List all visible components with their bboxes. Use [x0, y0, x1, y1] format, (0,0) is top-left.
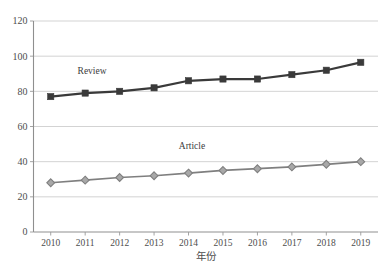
data-point-review-2016 [254, 76, 260, 82]
data-point-article-2012 [116, 174, 124, 182]
x-axis-ticks: 2010201120122013201420152016201720182019 [41, 232, 370, 248]
x-tick-label-2012: 2012 [110, 238, 129, 248]
series-label-article: Article [179, 141, 205, 151]
chart-container: 0204060801001202010201120122013201420152… [0, 0, 387, 277]
x-tick-label-2013: 2013 [145, 238, 164, 248]
data-point-review-2015 [220, 76, 226, 82]
data-point-review-2011 [82, 90, 88, 96]
x-tick-label-2015: 2015 [213, 238, 232, 248]
y-tick-label-40: 40 [18, 156, 28, 167]
x-axis-title: 年份 [196, 250, 217, 262]
data-point-article-2016 [254, 165, 262, 173]
y-tick-label-80: 80 [18, 86, 28, 97]
data-point-article-2019 [357, 158, 365, 166]
series-article [47, 158, 365, 187]
data-point-review-2010 [48, 94, 54, 100]
x-tick-label-2016: 2016 [248, 238, 267, 248]
data-point-article-2017 [288, 163, 296, 171]
data-point-review-2019 [358, 59, 364, 65]
data-point-review-2017 [289, 72, 295, 78]
data-point-review-2018 [323, 67, 329, 73]
series-line-article [51, 162, 361, 183]
series-label-review: Review [78, 66, 107, 76]
data-point-review-2013 [151, 85, 157, 91]
x-tick-label-2019: 2019 [351, 238, 370, 248]
x-tick-label-2018: 2018 [317, 238, 336, 248]
y-tick-label-60: 60 [18, 121, 28, 132]
data-point-article-2013 [150, 172, 158, 180]
data-point-review-2012 [117, 88, 123, 94]
x-tick-label-2010: 2010 [41, 238, 60, 248]
y-gridlines: 020406080100120 [13, 15, 379, 237]
data-point-review-2014 [185, 78, 191, 84]
data-point-article-2010 [47, 179, 55, 187]
y-tick-label-20: 20 [18, 191, 28, 202]
x-tick-label-2014: 2014 [179, 238, 198, 248]
y-tick-label-0: 0 [23, 226, 28, 237]
line-chart: 0204060801001202010201120122013201420152… [0, 0, 387, 277]
x-tick-label-2017: 2017 [282, 238, 301, 248]
data-point-article-2011 [81, 176, 89, 184]
y-tick-label-100: 100 [13, 51, 28, 62]
x-tick-label-2011: 2011 [76, 238, 95, 248]
figure-caption [0, 265, 387, 277]
data-point-article-2015 [219, 167, 227, 175]
data-point-article-2014 [185, 169, 193, 177]
y-tick-label-120: 120 [13, 15, 28, 26]
